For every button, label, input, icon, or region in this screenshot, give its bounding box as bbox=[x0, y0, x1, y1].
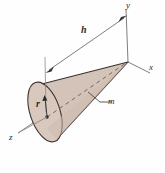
x-axis-line bbox=[128, 62, 150, 73]
height-label: h bbox=[81, 25, 87, 35]
mass-label: m bbox=[108, 97, 115, 106]
cone-figure: y x z h r m bbox=[0, 0, 165, 173]
radius-label: r bbox=[36, 99, 40, 109]
y-axis-label: y bbox=[126, 1, 130, 10]
y-axis-line bbox=[126, 9, 128, 62]
x-axis-label: x bbox=[149, 63, 153, 72]
z-axis-label: z bbox=[9, 133, 13, 142]
